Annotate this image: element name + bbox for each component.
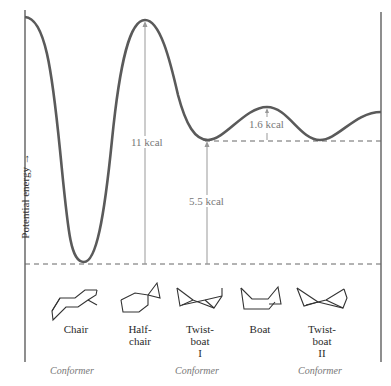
y-axis-arrow-icon: → bbox=[19, 153, 31, 164]
conformation-label-half-chair: Half- chair bbox=[120, 323, 160, 347]
conformer-tag-twist-boat-2: Conformer bbox=[298, 365, 342, 376]
half-chair-molecule-icon bbox=[121, 283, 160, 312]
conformation-label-line: II bbox=[302, 347, 342, 359]
conformation-label-twist-boat-1: Twist- boat I bbox=[180, 323, 220, 359]
conformation-label-line: Chair bbox=[56, 323, 96, 335]
arrowhead-icon bbox=[265, 108, 269, 113]
label-1-6-kcal: 1.6 kcal bbox=[248, 118, 285, 130]
boat-molecule-icon bbox=[241, 287, 281, 309]
conformation-label-line: Twist- bbox=[302, 323, 342, 335]
conformation-label-line: chair bbox=[120, 335, 160, 347]
conformation-label-line: Boat bbox=[240, 323, 280, 335]
conformation-label-chair: Chair bbox=[56, 323, 96, 335]
chair-molecule-icon bbox=[52, 290, 97, 320]
arrowhead-icon bbox=[205, 141, 210, 147]
conformer-tag-twist-boat-1: Conformer bbox=[175, 365, 219, 376]
energy-curve bbox=[25, 17, 381, 262]
twist-boat-2-molecule-icon bbox=[297, 288, 347, 308]
label-5-5-kcal: 5.5 kcal bbox=[188, 195, 225, 207]
arrowhead-icon bbox=[143, 21, 148, 27]
conformation-label-line: boat bbox=[302, 335, 342, 347]
conformation-label-boat: Boat bbox=[240, 323, 280, 335]
y-axis-label: Potential energy → bbox=[19, 141, 31, 251]
conformer-tag-chair: Conformer bbox=[50, 365, 94, 376]
conformation-label-line: boat bbox=[180, 335, 220, 347]
twist-boat-1-molecule-icon bbox=[177, 288, 222, 308]
conformation-label-line: I bbox=[180, 347, 220, 359]
label-11-kcal: 11 kcal bbox=[130, 136, 164, 148]
conformation-label-line: Twist- bbox=[180, 323, 220, 335]
y-axis-label-text: Potential energy bbox=[19, 167, 31, 239]
conformation-label-line: Half- bbox=[120, 323, 160, 335]
conformation-label-twist-boat-2: Twist- boat II bbox=[302, 323, 342, 359]
